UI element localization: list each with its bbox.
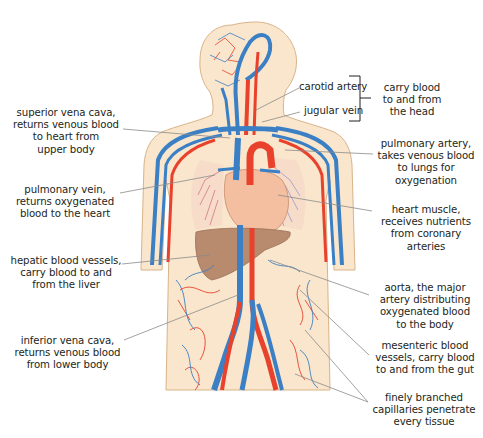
label-head-vessels: carry blood to and from the head <box>376 82 448 119</box>
label-mesenteric-vessels: mesenteric blood vessels, carry blood to… <box>370 340 480 377</box>
label-superior-vena-cava: superior vena cava, returns venous blood… <box>10 107 122 156</box>
circulatory-diagram: superior vena cava, returns venous blood… <box>0 0 483 438</box>
label-inferior-vena-cava: inferior vena cava, returns venous blood… <box>10 335 125 372</box>
label-aorta: aorta, the major artery distributing oxy… <box>370 282 480 331</box>
label-heart-muscle: heart muscle, receives nutrients from co… <box>376 204 476 253</box>
label-hepatic-vessels: hepatic blood vessels, carry blood to an… <box>8 255 124 292</box>
label-carotid-artery: carotid artery <box>299 81 369 93</box>
label-pulmonary-vein: pulmonary vein, returns oxygenated blood… <box>14 184 116 221</box>
label-capillaries: finely branched capillaries penetrate ev… <box>368 392 480 429</box>
superior-vena-cava <box>236 138 238 180</box>
label-jugular-vein: jugular vein <box>304 105 364 117</box>
label-pulmonary-artery: pulmonary artery, takes venous blood to … <box>372 138 480 187</box>
subclavian-veins <box>218 129 278 131</box>
